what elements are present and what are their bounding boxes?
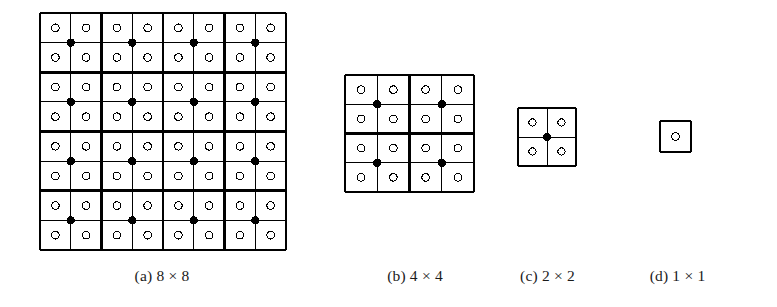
filled-dot: [67, 38, 75, 46]
open-circle: [175, 24, 183, 32]
open-circle: [52, 202, 60, 210]
open-circle: [558, 148, 565, 155]
filled-dot: [251, 157, 259, 165]
filled-dot: [543, 133, 551, 141]
filled-dot: [251, 216, 259, 224]
open-circle: [357, 174, 365, 182]
open-circle: [236, 172, 244, 180]
open-circle: [113, 231, 121, 239]
open-circle: [175, 143, 183, 151]
open-circle: [454, 144, 462, 152]
open-circle: [52, 83, 60, 91]
open-circle: [113, 113, 121, 121]
open-circle: [267, 231, 275, 239]
open-circle: [144, 172, 152, 180]
grid-4x4: [343, 73, 472, 190]
open-circle: [390, 115, 398, 123]
open-circle: [422, 174, 430, 182]
open-circle: [267, 143, 275, 151]
open-circle: [357, 115, 365, 123]
filled-dot: [128, 38, 136, 46]
filled-dot: [251, 38, 259, 46]
filled-dot: [67, 157, 75, 165]
filled-dot: [438, 100, 446, 108]
open-circle: [52, 231, 60, 239]
open-circle: [205, 54, 213, 62]
grid-svg-d: [658, 119, 693, 154]
open-circle: [390, 86, 398, 94]
open-circle: [52, 113, 60, 121]
open-circle: [52, 24, 60, 32]
open-circle: [144, 24, 152, 32]
open-circle: [175, 172, 183, 180]
open-circle: [175, 83, 183, 91]
open-circle: [236, 143, 244, 151]
open-circle: [144, 83, 152, 91]
caption-2x2: (c) 2 × 2: [490, 268, 605, 284]
filled-dot: [373, 100, 381, 108]
open-circle: [267, 83, 275, 91]
filled-dot: [251, 98, 259, 106]
open-circle: [82, 24, 90, 32]
open-circle: [144, 54, 152, 62]
open-circle: [529, 119, 536, 126]
open-circle: [205, 113, 213, 121]
open-circle: [454, 86, 462, 94]
filled-dot: [67, 216, 75, 224]
open-circle: [236, 202, 244, 210]
grid-svg-b: [343, 73, 476, 194]
filled-dot: [190, 216, 198, 224]
open-circle: [113, 24, 121, 32]
open-circle: [175, 113, 183, 121]
open-circle: [205, 24, 213, 32]
open-circle: [454, 115, 462, 123]
open-circle: [422, 144, 430, 152]
open-circle: [267, 54, 275, 62]
caption-1x1: (d) 1 × 1: [620, 268, 735, 284]
open-circle: [82, 83, 90, 91]
open-circle: [144, 113, 152, 121]
filled-dot: [128, 157, 136, 165]
open-circle: [236, 24, 244, 32]
caption-4x4: (b) 4 × 4: [355, 268, 475, 284]
open-circle: [205, 143, 213, 151]
open-circle: [205, 83, 213, 91]
open-circle: [267, 172, 275, 180]
grid-8x8: [38, 11, 284, 248]
open-circle: [558, 119, 565, 126]
filled-dot: [373, 159, 381, 167]
open-circle: [82, 202, 90, 210]
open-circle: [267, 202, 275, 210]
open-circle: [144, 202, 152, 210]
open-circle: [144, 231, 152, 239]
open-circle: [82, 54, 90, 62]
open-circle: [52, 143, 60, 151]
open-circle: [357, 144, 365, 152]
filled-dot: [190, 38, 198, 46]
filled-dot: [190, 98, 198, 106]
open-circle: [113, 202, 121, 210]
open-circle: [267, 113, 275, 121]
figure-root: (a) 8 × 8 (b) 4 × 4 (c) 2 × 2 (d) 1 × 1: [0, 0, 777, 307]
grid-svg-a: [38, 11, 288, 252]
filled-dot: [128, 98, 136, 106]
open-circle: [390, 144, 398, 152]
open-circle: [82, 231, 90, 239]
open-circle: [205, 202, 213, 210]
open-circle: [82, 172, 90, 180]
open-circle: [236, 113, 244, 121]
open-circle: [113, 143, 121, 151]
open-circle: [175, 231, 183, 239]
open-circle: [113, 83, 121, 91]
open-circle: [205, 172, 213, 180]
grid-2x2: [516, 106, 574, 164]
open-circle: [422, 115, 430, 123]
open-circle: [422, 86, 430, 94]
open-circle: [205, 231, 213, 239]
open-circle: [175, 54, 183, 62]
open-circle: [390, 174, 398, 182]
open-circle: [236, 231, 244, 239]
open-circle: [175, 202, 183, 210]
open-circle: [236, 54, 244, 62]
caption-8x8: (a) 8 × 8: [62, 268, 262, 284]
